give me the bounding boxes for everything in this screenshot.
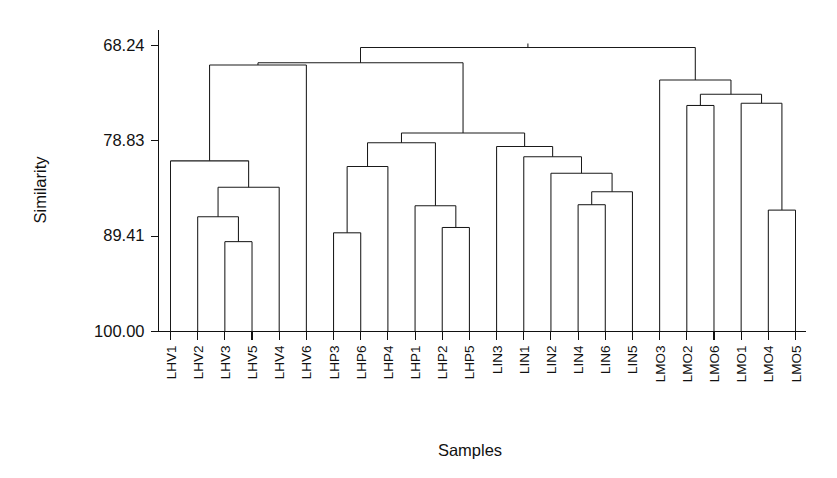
x-tick-label-lhp5: LHP5 bbox=[462, 346, 477, 380]
dendrogram-plot: 68.2478.8389.41100.00 LHV1LHV2LHV3LHV5LH… bbox=[0, 0, 837, 478]
x-tick-label-lhv5: LHV5 bbox=[245, 346, 260, 380]
y-tick-labels: 68.2478.8389.41100.00 bbox=[94, 36, 144, 340]
dendrogram-merge-m2 bbox=[198, 217, 239, 332]
y-axis-title: Similarity bbox=[31, 156, 49, 224]
dendrogram-merge-m17 bbox=[258, 63, 463, 133]
y-tick-label: 78.83 bbox=[103, 131, 144, 149]
dendrogram-merge-m8 bbox=[442, 227, 469, 331]
x-tick-label-lin1: LIN1 bbox=[517, 346, 532, 375]
x-tick-label-lin4: LIN4 bbox=[571, 345, 586, 374]
dendrogram-merge-m20 bbox=[687, 105, 714, 331]
dendrogram-merge-m9 bbox=[415, 206, 456, 332]
dendrogram-merge-m1 bbox=[225, 242, 252, 332]
x-tick-label-lhv6: LHV6 bbox=[299, 346, 314, 380]
x-tick-label-lmo2: LMO2 bbox=[680, 346, 695, 383]
dendrogram-merge-m3 bbox=[218, 187, 279, 331]
dendrogram-merge-m11 bbox=[578, 205, 605, 332]
dendrogram-merge-m6 bbox=[334, 233, 361, 332]
x-tick-label-lin3: LIN3 bbox=[490, 346, 505, 375]
dendrogram-merge-m15 bbox=[497, 147, 553, 332]
x-tick-label-lmo1: LMO1 bbox=[734, 346, 749, 383]
dendrogram-merge-m16 bbox=[401, 133, 524, 147]
dendrogram-merge-m12 bbox=[592, 192, 633, 332]
dendrogram-figure: 68.2478.8389.41100.00 LHV1LHV2LHV3LHV5LH… bbox=[0, 0, 837, 478]
x-tick-label-lhp3: LHP3 bbox=[327, 346, 342, 380]
dendrogram-merge-m19 bbox=[741, 103, 782, 331]
x-tick-label-lhp2: LHP2 bbox=[435, 346, 450, 380]
x-axis-title: Samples bbox=[438, 441, 502, 459]
y-tick-label: 89.41 bbox=[103, 226, 144, 244]
x-tick-label-lin2: LIN2 bbox=[544, 346, 559, 375]
x-tick-label-lhp4: LHP4 bbox=[381, 345, 396, 379]
dendrogram-merge-m5 bbox=[210, 65, 307, 331]
dendrogram-merge-m7 bbox=[347, 166, 388, 331]
x-tick-label-lmo6: LMO6 bbox=[707, 346, 722, 383]
y-tick-label: 100.00 bbox=[94, 322, 144, 340]
x-tick-label-lmo3: LMO3 bbox=[653, 346, 668, 383]
x-tick-label-lhp1: LHP1 bbox=[408, 346, 423, 380]
x-tick-label-lmo4: LMO4 bbox=[761, 345, 776, 382]
dendrogram-merge-m18 bbox=[768, 210, 795, 331]
x-tick-label-lin6: LIN6 bbox=[598, 346, 613, 375]
dendrogram-merge-m4 bbox=[171, 161, 249, 332]
dendrogram-merge-m14 bbox=[524, 157, 582, 332]
x-tick-label-lhv1: LHV1 bbox=[164, 346, 179, 380]
x-tick-label-lin5: LIN5 bbox=[625, 346, 640, 375]
x-tick-label-lhv3: LHV3 bbox=[218, 346, 233, 380]
dendrogram-merge-m22 bbox=[660, 80, 731, 331]
x-tick-label-lhp6: LHP6 bbox=[354, 346, 369, 380]
x-tick-label-lmo5: LMO5 bbox=[789, 346, 804, 383]
x-tick-labels: LHV1LHV2LHV3LHV5LHV4LHV6LHP3LHP6LHP4LHP1… bbox=[164, 345, 804, 382]
dendrogram-merge-m10 bbox=[368, 143, 436, 206]
dendrogram-merge-m13 bbox=[551, 173, 612, 331]
x-tick-label-lhv2: LHV2 bbox=[191, 346, 206, 380]
dendrogram-merge-m23 bbox=[361, 47, 696, 80]
y-tick-label: 68.24 bbox=[103, 36, 144, 54]
x-tick-label-lhv4: LHV4 bbox=[272, 345, 287, 379]
dendrogram-tree-layer bbox=[171, 43, 796, 331]
